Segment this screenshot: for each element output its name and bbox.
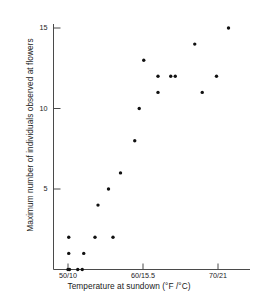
data-point: [133, 139, 136, 142]
data-point: [215, 75, 218, 78]
data-point: [201, 91, 204, 94]
y-axis-ticks: [54, 28, 61, 189]
scatter-plot-figure: 50/1060/15.570/21 51015 Maximum number o…: [0, 0, 258, 302]
data-point: [67, 236, 70, 239]
x-axis-title: Temperature at sundown (°F /°C): [0, 281, 258, 291]
data-point: [169, 75, 172, 78]
axis-lines: [54, 24, 251, 270]
data-point: [156, 75, 159, 78]
data-point: [142, 59, 145, 62]
plot-canvas: [0, 0, 258, 302]
data-point-group: [66, 26, 230, 271]
data-point: [111, 236, 114, 239]
data-point: [82, 252, 85, 255]
data-point: [193, 42, 196, 45]
data-point: [138, 107, 141, 110]
data-point: [67, 252, 70, 255]
x-tick-label: 50/10: [38, 271, 98, 280]
data-point: [156, 91, 159, 94]
data-point: [93, 236, 96, 239]
data-point: [174, 75, 177, 78]
y-axis-title: Maximum number of individuals observed a…: [25, 10, 35, 260]
x-tick-label: 60/15.5: [113, 271, 173, 280]
data-point: [107, 187, 110, 190]
data-point: [96, 203, 99, 206]
data-point: [227, 26, 230, 29]
x-tick-label: 70/21: [188, 271, 248, 280]
x-axis-ticks: [68, 264, 218, 270]
data-point: [119, 171, 122, 174]
